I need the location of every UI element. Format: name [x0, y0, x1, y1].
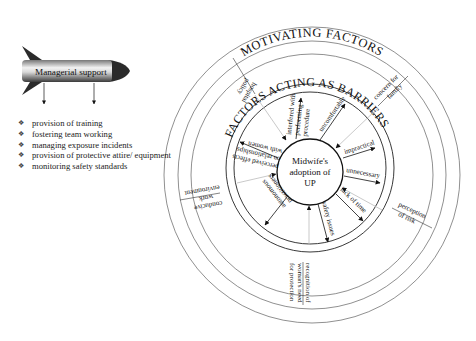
rocket-managerial-support: Managerial support — [22, 46, 130, 104]
center-line-3: UP — [304, 178, 316, 188]
rocket-bottom-fin — [22, 82, 42, 95]
label-safety-issues: safety issues — [320, 200, 337, 236]
center-line-2: adoption of — [289, 167, 330, 177]
managerial-support-list: provision of training fostering team wor… — [18, 118, 171, 172]
rocket-label: Managerial support — [35, 67, 107, 77]
label-concern-family: concern for family — [372, 72, 408, 108]
center-line-1: Midwife's — [292, 156, 329, 166]
label-recognition: recognition of woman's need for protecti… — [288, 263, 312, 304]
label-interfered: interfered with performing procedure — [285, 91, 313, 136]
support-item-team-working: fostering team working — [18, 129, 171, 140]
support-item-exposure-incidents: managing exposure incidents — [18, 140, 171, 151]
label-perceived-effects: perceived effects on relationships with … — [230, 136, 283, 170]
arrow-hospital-policy — [255, 95, 286, 140]
support-item-protective-attire: provision of protective attire/ equipmen… — [18, 150, 171, 161]
rocket-top-fin — [22, 46, 42, 60]
label-uncomfortable: uncomfortable — [317, 95, 347, 133]
support-item-safety-standards: monitoring safety standards — [18, 161, 171, 172]
label-unnecessary: unnecessary — [346, 166, 382, 180]
label-perception-risk: perception of risk — [393, 201, 429, 230]
support-item-training: provision of training — [18, 118, 171, 129]
